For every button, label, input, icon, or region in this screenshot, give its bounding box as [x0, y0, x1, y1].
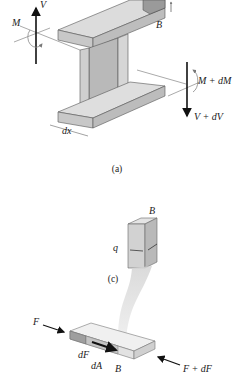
label-b-block: B [149, 205, 155, 216]
label-q: q [113, 242, 118, 253]
label-m-dm: M + dM [197, 75, 232, 86]
moment-m-arrow [28, 30, 42, 47]
force-f-arrow [43, 325, 64, 332]
label-b-top: B [156, 19, 162, 30]
label-f: F [32, 316, 40, 327]
zoom-ribbon [118, 266, 152, 342]
label-da: dA [91, 360, 103, 371]
element-b-block: B q [113, 205, 157, 268]
caption-a: (a) [112, 164, 123, 175]
i-beam-element [58, 0, 165, 128]
caption-c: (c) [108, 274, 119, 285]
dx-dimension: dx [50, 125, 88, 136]
label-v: V [40, 0, 48, 10]
force-f-df-arrow [158, 357, 180, 365]
label-v-dv: V + dV [194, 111, 225, 122]
beam-diagram: V M B M + dM V + dV dx (a) B q (c) [0, 0, 234, 382]
label-b-detail: B [115, 363, 121, 374]
label-df: dF [78, 349, 90, 360]
label-m: M [11, 17, 21, 28]
label-dx: dx [62, 125, 72, 136]
label-f-df: F + dF [182, 363, 213, 374]
